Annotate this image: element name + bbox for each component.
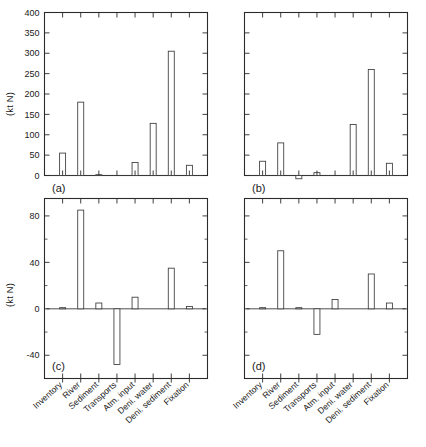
bar	[168, 268, 174, 309]
panel-b-label: (b)	[252, 182, 265, 194]
bar	[314, 309, 320, 335]
bar	[368, 274, 374, 309]
y-tick-label: 100	[24, 130, 39, 140]
bar	[260, 308, 266, 309]
y-tick-label: 400	[24, 8, 39, 18]
bar	[78, 102, 84, 175]
y-tick-label: 300	[24, 48, 39, 58]
bar	[60, 308, 66, 309]
category-label: Inventory	[231, 379, 264, 411]
bar	[332, 300, 338, 309]
y-tick-label: 40	[29, 258, 39, 268]
panel-c-bars	[47, 210, 206, 364]
bar	[296, 308, 302, 309]
bar	[78, 210, 84, 309]
y-tick-labels-bottom: -4004080	[26, 211, 39, 360]
y-tick-labels-top: 050100150200250300350400	[24, 8, 39, 181]
panel-b-bars	[247, 70, 406, 179]
y-axis-title-bottom: (kt N)	[4, 283, 15, 307]
bar	[186, 307, 192, 309]
panel-d-label: (d)	[252, 360, 265, 372]
figure-root: (a) (b) (c) (d) (kt N) (kt N) 0501001502…	[0, 0, 426, 447]
bar	[96, 303, 102, 309]
y-tick-label: 200	[24, 89, 39, 99]
y-tick-label: 0	[34, 171, 39, 181]
bar	[168, 51, 174, 175]
y-tick-label: -40	[26, 350, 39, 360]
panel-c-label: (c)	[52, 360, 65, 372]
panel-a-bars	[47, 51, 206, 175]
panel-b: (b)	[245, 13, 408, 195]
y-tick-label: 150	[24, 110, 39, 120]
y-tick-label: 250	[24, 69, 39, 79]
panel-a: (a)	[45, 13, 208, 195]
bar	[132, 297, 138, 309]
y-tick-label: 80	[29, 211, 39, 221]
axis-decorations	[45, 13, 408, 383]
category-labels: InventoryRiverSedimentTransportsAtm. inp…	[31, 379, 391, 425]
bar	[368, 70, 374, 176]
bar	[386, 303, 392, 309]
bar	[350, 125, 356, 176]
bar	[296, 176, 302, 179]
bar	[114, 309, 120, 365]
panel-c: (c)	[45, 199, 208, 379]
panel-d: (d)	[245, 199, 408, 379]
category-label: Inventory	[31, 379, 64, 411]
panel-a-label: (a)	[52, 182, 65, 194]
bar	[150, 123, 156, 175]
panel-d-bars	[247, 251, 406, 335]
y-tick-label: 350	[24, 28, 39, 38]
y-tick-label: 0	[34, 304, 39, 314]
y-tick-label: 50	[29, 150, 39, 160]
bar	[278, 251, 284, 309]
y-axis-title-top: (kt N)	[4, 92, 15, 116]
